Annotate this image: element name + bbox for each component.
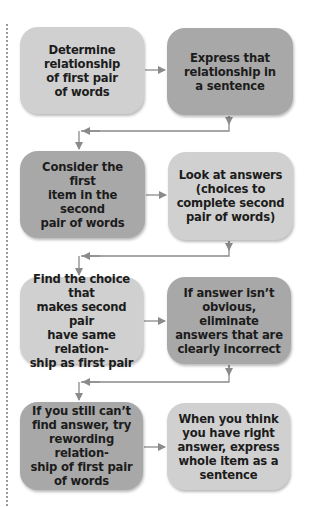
step-2-express-relationship: Express that relationship in a sentence bbox=[167, 28, 293, 115]
step-1-determine-relationship: Determine relationship of first pair of … bbox=[20, 27, 144, 114]
margin-dotted-rule bbox=[6, 24, 8, 506]
step-4-text: Look at answers (choices to complete sec… bbox=[177, 168, 285, 224]
step-6-eliminate-answers: If answer isn’t obvious, eliminate answe… bbox=[167, 277, 291, 364]
arrow-4-to-5 bbox=[81, 241, 229, 256]
step-6-text: If answer isn’t obvious, eliminate answe… bbox=[175, 286, 283, 356]
step-2-text: Express that relationship in a sentence bbox=[184, 51, 276, 93]
step-3-consider-first-item: Consider the first item in the second pa… bbox=[20, 151, 145, 238]
step-3-text: Consider the first item in the second pa… bbox=[28, 160, 137, 230]
step-5-find-choice: Find the choice that makes second pair h… bbox=[20, 277, 143, 364]
step-8-text: When you think you have right answer, ex… bbox=[177, 412, 279, 482]
step-8-express-whole-item: When you think you have right answer, ex… bbox=[167, 403, 290, 490]
step-1-text: Determine relationship of first pair of … bbox=[44, 43, 120, 99]
step-4-look-at-answers: Look at answers (choices to complete sec… bbox=[168, 152, 293, 240]
step-7-text: If you still can’t find answer, try rewo… bbox=[28, 404, 135, 488]
step-7-reword-relationship: If you still can’t find answer, try rewo… bbox=[20, 402, 143, 490]
step-5-text: Find the choice that makes second pair h… bbox=[28, 272, 135, 370]
arrow-2-to-3 bbox=[81, 116, 229, 131]
